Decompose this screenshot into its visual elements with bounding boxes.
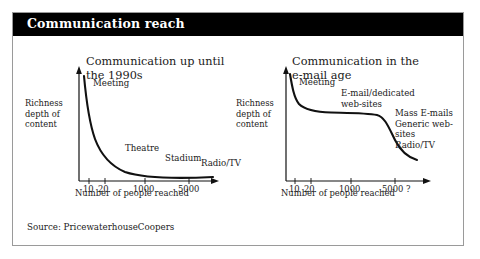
annotation-left-theatre: Theatre	[125, 143, 159, 154]
figure-frame: Communication reach Communication up unt…	[12, 12, 464, 246]
y-axis-arrow-right	[283, 66, 289, 74]
chart-svg-left	[13, 36, 239, 236]
y-axis-arrow-left	[76, 66, 82, 74]
chart-panel-left: Communication up until the 1990s Richnes…	[13, 36, 239, 236]
annotation-right-email-sites: E-mail/dedicated web-sites	[341, 88, 415, 109]
source-note: Source: PricewaterhouseCoopers	[27, 222, 174, 232]
x-axis-arrow-right	[423, 178, 431, 184]
x-axis-arrow-left	[211, 178, 219, 184]
page-title: Communication reach	[27, 16, 185, 31]
annotation-right-meeting: Meeting	[299, 77, 335, 88]
figure-body: Communication up until the 1990s Richnes…	[13, 36, 463, 246]
annotation-right-mass-email: Mass E-mails Generic web-sites Radio/TV	[395, 108, 453, 150]
x-axis-label-left: Number of people reached	[75, 188, 189, 198]
figure-header-bar: Communication reach	[13, 13, 463, 36]
annotation-left-stadium: Stadium	[165, 153, 201, 164]
annotation-left-meeting: Meeting	[93, 78, 129, 89]
x-axis-label-right: Number of people reached	[281, 188, 395, 198]
chart-panel-right: Communication in the e-mail age Richness…	[227, 36, 453, 236]
